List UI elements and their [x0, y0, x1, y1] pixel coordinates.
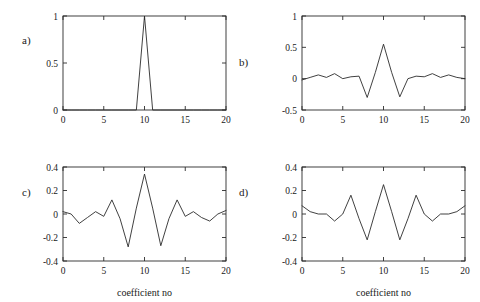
- xticklabel-a-4: 20: [221, 115, 231, 125]
- xticklabel-d-1: 5: [340, 266, 345, 276]
- figure-canvas: a)0510152000.51b)05101520-0.500.51c)0510…: [0, 0, 480, 302]
- yticklabel-b-1: 0: [292, 74, 297, 84]
- xticklabel-b-2: 10: [379, 115, 389, 125]
- plot-frame-a: [63, 16, 226, 110]
- plot-area-d: 05101520-0.4-0.200.20.4: [262, 157, 479, 287]
- xticklabel-c-3: 15: [181, 266, 191, 276]
- xticklabel-b-4: 20: [460, 115, 470, 125]
- panel-label-c: c): [22, 186, 31, 198]
- xticklabel-d-3: 15: [420, 266, 430, 276]
- xaxis-label-d: coefficient no: [302, 287, 465, 298]
- plot-frame-c: [63, 167, 226, 261]
- yticklabel-d-0: -0.4: [282, 257, 297, 267]
- xticklabel-b-3: 15: [420, 115, 430, 125]
- xticklabel-d-0: 0: [300, 266, 305, 276]
- panel-d: d)05101520-0.4-0.200.20.4coefficient no: [0, 0, 480, 302]
- yticklabel-c-0: -0.4: [43, 257, 58, 267]
- xticklabel-c-4: 20: [221, 266, 231, 276]
- panel-a: a)0510152000.51: [0, 0, 480, 302]
- plot-frame-b: [302, 16, 465, 110]
- data-series-d: [302, 185, 465, 240]
- plot-area-a: 0510152000.51: [23, 6, 240, 136]
- plot-area-b: 05101520-0.500.51: [262, 6, 479, 136]
- panel-label-b: b): [239, 56, 248, 68]
- yticklabel-c-1: -0.2: [43, 233, 58, 243]
- xaxis-label-c: coefficient no: [63, 287, 226, 298]
- xticklabel-c-1: 5: [101, 266, 106, 276]
- panel-label-d: d): [239, 186, 248, 198]
- xticklabel-c-0: 0: [61, 266, 66, 276]
- panel-c: c)05101520-0.4-0.200.20.4coefficient no: [0, 0, 480, 302]
- xticklabel-a-0: 0: [61, 115, 66, 125]
- data-series-b: [302, 44, 465, 97]
- xticklabel-a-3: 15: [181, 115, 191, 125]
- yticklabel-b-3: 1: [292, 12, 297, 22]
- panel-label-a: a): [22, 34, 31, 46]
- data-series-c: [63, 174, 226, 247]
- xticklabel-a-2: 10: [140, 115, 150, 125]
- yticklabel-c-4: 0.4: [46, 163, 58, 173]
- yticklabel-c-2: 0: [53, 210, 58, 220]
- panel-b: b)05101520-0.500.51: [0, 0, 480, 302]
- xticklabel-b-0: 0: [300, 115, 305, 125]
- plot-frame-d: [302, 167, 465, 261]
- yticklabel-a-0: 0: [53, 106, 58, 116]
- plot-area-c: 05101520-0.4-0.200.20.4: [23, 157, 240, 287]
- data-series-a: [63, 16, 226, 110]
- yticklabel-c-3: 0.2: [46, 186, 58, 196]
- yticklabel-b-0: -0.5: [282, 106, 297, 116]
- yticklabel-a-1: 0.5: [46, 59, 58, 69]
- xticklabel-d-4: 20: [460, 266, 470, 276]
- xticklabel-d-2: 10: [379, 266, 389, 276]
- yticklabel-b-2: 0.5: [285, 43, 297, 53]
- xticklabel-a-1: 5: [101, 115, 106, 125]
- yticklabel-d-3: 0.2: [285, 186, 297, 196]
- xticklabel-b-1: 5: [340, 115, 345, 125]
- yticklabel-d-2: 0: [292, 210, 297, 220]
- yticklabel-d-1: -0.2: [282, 233, 297, 243]
- xticklabel-c-2: 10: [140, 266, 150, 276]
- yticklabel-a-2: 1: [53, 12, 58, 22]
- yticklabel-d-4: 0.4: [285, 163, 297, 173]
